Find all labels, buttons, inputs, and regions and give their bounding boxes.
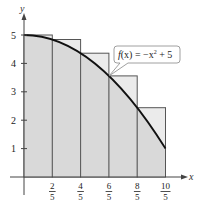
svg-text:2: 2 (50, 181, 55, 191)
svg-text:10: 10 (161, 181, 171, 191)
y-tick-label-2: 2 (11, 115, 16, 126)
y-tick-label-3: 3 (11, 86, 16, 97)
x-tick-label-6-5: 6 5 (106, 181, 113, 202)
svg-text:5: 5 (50, 192, 55, 202)
y-axis-arrow-icon (22, 13, 27, 20)
svg-text:5: 5 (163, 192, 168, 202)
svg-text:8: 8 (135, 181, 140, 191)
callout-text: f(x) = −x2 + 5 (118, 49, 172, 61)
x-tick-label-2-5: 2 5 (49, 181, 56, 202)
y-tick-label-1: 1 (11, 143, 16, 154)
x-axis-label: x (188, 171, 194, 182)
x-tick-label-4-5: 4 5 (77, 181, 84, 202)
function-callout: f(x) = −x2 + 5 (109, 46, 180, 76)
y-tick-label-5: 5 (11, 30, 16, 41)
svg-text:5: 5 (107, 192, 112, 202)
x-tick-labels: 2 5 4 5 6 5 8 5 10 5 (49, 181, 171, 202)
x-axis-arrow-icon (181, 175, 188, 180)
svg-text:5: 5 (135, 192, 140, 202)
y-axis-label: y (19, 3, 25, 14)
x-tick-label-10-5: 10 5 (161, 181, 171, 202)
svg-text:5: 5 (78, 192, 83, 202)
y-tick-label-4: 4 (11, 58, 16, 69)
chart-canvas: y x 5 4 3 2 1 2 5 4 5 6 5 8 5 10 5 (0, 0, 197, 208)
x-tick-label-8-5: 8 5 (134, 181, 141, 202)
svg-text:6: 6 (107, 181, 112, 191)
svg-text:4: 4 (78, 181, 83, 191)
